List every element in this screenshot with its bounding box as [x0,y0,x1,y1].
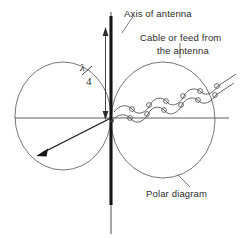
cable-feed-line [110,74,236,123]
quarter-wavelength-dimension: λ 4 [79,27,108,120]
diagram-canvas: λ 4 [0,0,243,238]
left-lobe [15,62,111,170]
label-axis-of-antenna: Axis of antenna [124,8,192,19]
polar-diagram-figure: λ 4 [0,0,243,238]
cable-tail-upper [218,74,236,86]
right-lobe [111,62,215,178]
lambda-symbol: λ [79,61,85,73]
radiation-vector-line [42,118,111,153]
lambda-denominator: 4 [86,75,92,87]
leader-polar-diagram [178,175,190,187]
arrow-down-icon [103,111,109,120]
label-cable-feed-line2: the antenna [157,45,209,56]
feed-point [110,119,114,123]
polar-lobes [15,62,215,178]
arrow-up-icon [103,27,109,36]
label-polar-diagram: Polar diagram [146,188,207,199]
label-cable-feed-line1: Cable or feed from [140,32,221,43]
radiation-vector-head [36,149,48,157]
